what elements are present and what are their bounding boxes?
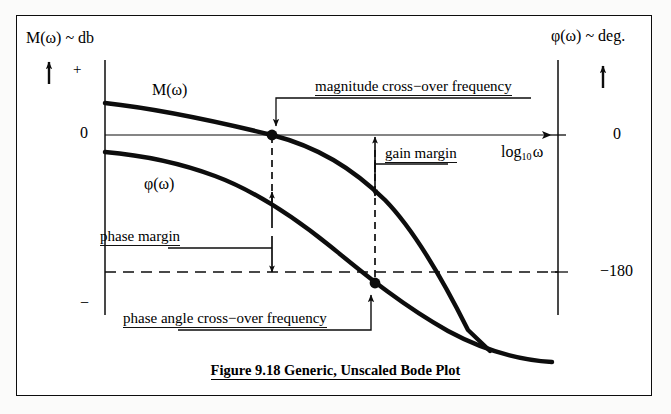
bode-plot-figure: M(ω) ~ db + 0 − φ(ω) ~ deg. 0 −180 log10…: [0, 0, 671, 414]
gain-margin-annotation: gain margin: [385, 146, 457, 161]
x-axis-label-log: log: [501, 143, 521, 160]
right-axis-title: φ(ω) ~ deg.: [551, 28, 625, 44]
x-axis-label-omega: ω: [533, 143, 544, 160]
figure-caption: Figure 9.18 Generic, Unscaled Bode Plot: [0, 362, 671, 379]
phase-margin-annotation: phase margin: [100, 229, 180, 244]
left-axis-zero-label: 0: [80, 125, 88, 141]
x-axis-label: log10 ω: [501, 144, 543, 162]
gain-margin-text: gain margin: [385, 145, 457, 163]
phase-curve-label: φ(ω): [144, 176, 174, 192]
x-axis-label-base: 10: [521, 151, 531, 162]
left-axis-minus-sign: −: [80, 295, 89, 311]
right-axis-zero-label: 0: [613, 126, 621, 142]
magnitude-crossover-text: magnitude cross−over frequency: [315, 78, 512, 96]
magnitude-crossover-annotation: magnitude cross−over frequency: [315, 79, 512, 94]
magnitude-curve-label: M(ω): [152, 82, 187, 98]
bode-plot-canvas: [0, 0, 671, 414]
right-axis-minus180-label: −180: [600, 263, 633, 279]
left-axis-title: M(ω) ~ db: [26, 30, 94, 46]
phase-crossover-point: [370, 278, 381, 289]
figure-caption-text: Figure 9.18 Generic, Unscaled Bode Plot: [211, 362, 461, 380]
phase-crossover-annotation: phase angle cross−over frequency: [123, 311, 327, 326]
left-axis-plus-sign: +: [73, 62, 81, 77]
magnitude-crossover-leader: [276, 98, 531, 126]
magnitude-crossover-point: [267, 130, 278, 141]
phase-crossover-text: phase angle cross−over frequency: [123, 310, 327, 328]
phase-margin-text: phase margin: [100, 228, 180, 246]
